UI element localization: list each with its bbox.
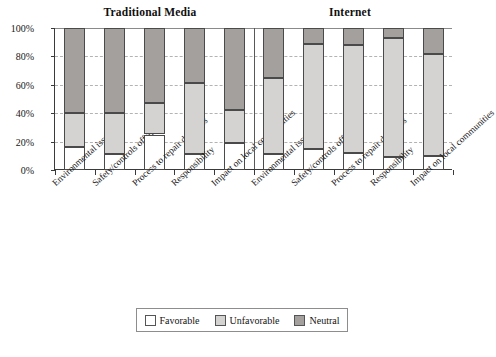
y-axis-label-0: 0%: [0, 165, 34, 176]
y-axis-label-60: 60%: [0, 79, 34, 90]
bar-traditional-2[interactable]: [144, 28, 165, 169]
segment-unfavorable: [144, 103, 165, 134]
y-axis-label-80: 80%: [0, 51, 34, 62]
segment-neutral: [184, 28, 205, 83]
y-tick-80: [51, 56, 56, 57]
segment-unfavorable: [343, 45, 364, 153]
segment-neutral: [303, 28, 324, 44]
y-tick-40: [51, 113, 56, 114]
bar-traditional-3[interactable]: [184, 28, 205, 169]
segment-neutral: [263, 28, 284, 78]
legend-swatch-icon-neutral: [294, 315, 305, 326]
panel-divider: [254, 28, 255, 169]
bar-internet-2[interactable]: [343, 28, 364, 169]
segment-unfavorable: [263, 78, 284, 155]
legend-item-favorable[interactable]: Favorable: [145, 315, 200, 326]
legend-label: Neutral: [309, 315, 339, 326]
bar-internet-3[interactable]: [383, 28, 404, 169]
bar-internet-1[interactable]: [303, 28, 324, 169]
y-tick-20: [51, 142, 56, 143]
y-axis-label-20: 20%: [0, 136, 34, 147]
segment-unfavorable: [383, 38, 404, 157]
y-axis-label-100: 100%: [0, 23, 34, 34]
chart-legend: FavorableUnfavorableNeutral: [136, 308, 348, 332]
segment-unfavorable: [184, 83, 205, 154]
y-tick-60: [51, 85, 56, 86]
segment-unfavorable: [423, 54, 444, 156]
bar-internet-0[interactable]: [263, 28, 284, 169]
panel-title-traditional-media: Traditional Media: [60, 6, 240, 18]
segment-neutral: [224, 28, 245, 110]
bar-traditional-4[interactable]: [224, 28, 245, 169]
segment-unfavorable: [64, 113, 85, 147]
y-axis-label-40: 40%: [0, 108, 34, 119]
segment-neutral: [383, 28, 404, 38]
bar-traditional-0[interactable]: [64, 28, 85, 169]
legend-swatch-icon-unfavorable: [215, 315, 226, 326]
legend-item-unfavorable[interactable]: Unfavorable: [215, 315, 280, 326]
segment-neutral: [104, 28, 125, 113]
bar-traditional-1[interactable]: [104, 28, 125, 169]
segment-unfavorable: [104, 113, 125, 154]
segment-unfavorable: [224, 110, 245, 143]
x-tick-10: [453, 170, 454, 175]
legend-label: Unfavorable: [230, 315, 280, 326]
segment-neutral: [144, 28, 165, 103]
y-tick-100: [51, 28, 56, 29]
segment-neutral: [64, 28, 85, 113]
segment-neutral: [343, 28, 364, 45]
legend-swatch-icon-favorable: [145, 315, 156, 326]
legend-label: Favorable: [160, 315, 200, 326]
plot-area: 0%20%40%60%80%100%Environmental issuesSa…: [54, 28, 452, 170]
bar-internet-4[interactable]: [423, 28, 444, 169]
panel-title-internet: Internet: [280, 6, 420, 18]
segment-unfavorable: [303, 44, 324, 149]
legend-item-neutral[interactable]: Neutral: [294, 315, 339, 326]
segment-neutral: [423, 28, 444, 54]
